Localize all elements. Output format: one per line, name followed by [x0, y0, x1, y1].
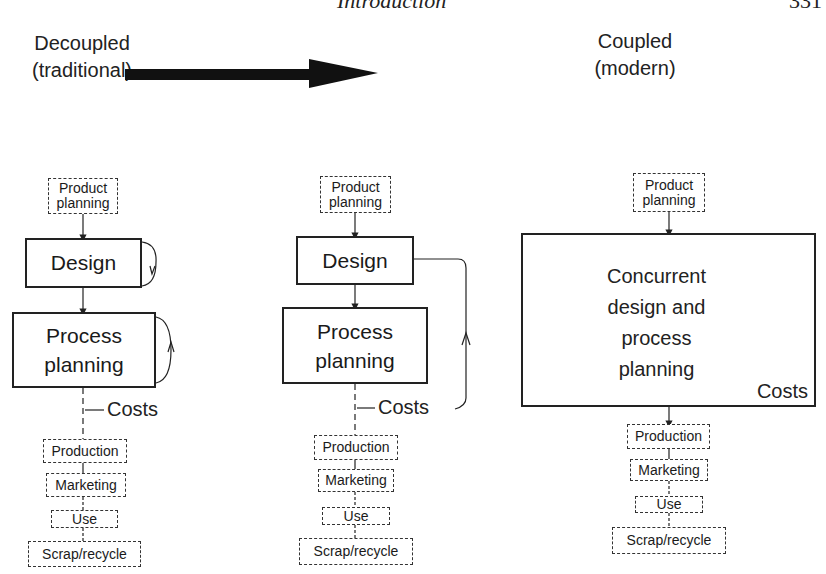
page-number: 331 [789, 0, 822, 14]
label: Process [44, 321, 123, 350]
decoupled-marketing: Marketing [46, 473, 126, 497]
intermediate-product-planning: Productplanning [320, 176, 391, 213]
coupled-label: Coupled (modern) [580, 28, 690, 82]
concurrent-label: Concurrent design and process planning [607, 261, 706, 385]
right-arrow-icon [125, 59, 378, 88]
coupled-label-line1: Coupled [580, 28, 690, 55]
decoupled-costs-label: Costs [107, 398, 158, 421]
intermediate-process-planning-box: Processplanning [282, 307, 428, 384]
coupled-scrap-recycle: Scrap/recycle [612, 527, 726, 554]
intermediate-marketing: Marketing [318, 469, 394, 492]
coupled-marketing: Marketing [630, 459, 708, 481]
coupled-production: Production [627, 424, 710, 449]
label: Concurrent [607, 261, 706, 292]
coupled-product-planning: Productplanning [633, 173, 705, 212]
decoupled-use: Use [51, 510, 118, 528]
intermediate-scrap-recycle: Scrap/recycle [299, 538, 413, 565]
label: planning [329, 195, 382, 210]
label: planning [44, 350, 123, 379]
decoupled-product-planning: Productplanning [48, 178, 118, 214]
label: planning [315, 346, 394, 375]
label: design and [607, 292, 706, 323]
label: Process [315, 317, 394, 346]
label: process [607, 323, 706, 354]
decoupled-scrap-recycle: Scrap/recycle [28, 541, 141, 567]
coupled-concurrent-box: Concurrent design and process planning C… [521, 233, 816, 407]
coupled-costs-label: Costs [757, 380, 808, 403]
decoupled-label-line2: (traditional) [22, 57, 142, 84]
label: planning [57, 196, 110, 211]
running-title: Introduction [337, 0, 446, 14]
intermediate-production: Production [314, 435, 398, 460]
design-label: Design [51, 251, 116, 275]
intermediate-costs-label: Costs [378, 396, 429, 419]
label: Product [57, 181, 110, 196]
label: Product [643, 178, 696, 193]
label: planning [643, 193, 696, 208]
decoupled-production: Production [43, 439, 127, 463]
label: planning [607, 354, 706, 385]
decoupled-label: Decoupled (traditional) [22, 30, 142, 84]
decoupled-process-planning-box: Processplanning [12, 312, 156, 388]
design-label: Design [322, 249, 387, 273]
intermediate-design-box: Design [296, 236, 414, 285]
label: Product [329, 180, 382, 195]
coupled-label-line2: (modern) [580, 55, 690, 82]
decoupled-label-line1: Decoupled [22, 30, 142, 57]
intermediate-use: Use [322, 507, 390, 525]
coupled-use: Use [635, 496, 703, 513]
decoupled-design-box: Design [25, 238, 142, 288]
